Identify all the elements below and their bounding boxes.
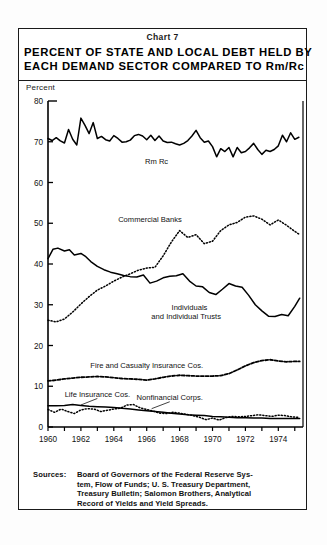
- sources-line-3: Treasury Bulletin; Salomon Brothers, Ana…: [77, 489, 253, 499]
- y-tick-label: 10: [34, 382, 44, 391]
- chart-svg: 0102030405060708019601962196419661968197…: [18, 93, 307, 445]
- sources-line-2: tem, Flow of Funds; U. S. Treasury Depar…: [77, 480, 253, 490]
- x-tick-label: 1960: [39, 435, 58, 444]
- y-axis-unit-label: Percent: [26, 83, 55, 92]
- title-line-1: PERCENT OF STATE AND LOCAL DEBT HELD BY: [24, 46, 301, 60]
- x-tick-label: 1968: [171, 435, 190, 444]
- page-title: PERCENT OF STATE AND LOCAL DEBT HELD BY …: [24, 46, 301, 73]
- sources-text: Board of Governors of the Federal Reserv…: [77, 470, 253, 508]
- sources-line-1: Board of Governors of the Federal Reserv…: [77, 470, 253, 480]
- y-tick-label: 70: [34, 138, 44, 147]
- y-tick-label: 0: [38, 423, 43, 432]
- series-annotation: Commercial Banks: [118, 215, 182, 224]
- series-annotation: and Individual Trusts: [151, 312, 221, 321]
- x-tick-label: 1974: [269, 435, 288, 444]
- y-tick-label: 40: [34, 260, 44, 269]
- sources-block: Sources: Board of Governors of the Feder…: [33, 470, 291, 508]
- series-annotation: Rm Rc: [145, 157, 168, 166]
- x-tick-label: 1964: [105, 435, 124, 444]
- x-tick-label: 1970: [203, 435, 222, 444]
- x-tick-label: 1962: [72, 435, 91, 444]
- y-tick-label: 50: [34, 219, 44, 228]
- series-line: [48, 405, 300, 419]
- x-tick-label: 1972: [236, 435, 255, 444]
- plot-area: 0102030405060708019601962196419661968197…: [18, 93, 307, 445]
- title-divider: [19, 80, 306, 81]
- chart-number-label: Chart 7: [18, 32, 307, 42]
- chart-page: Chart 7 PERCENT OF STATE AND LOCAL DEBT …: [0, 0, 327, 545]
- sources-line-4: Record of Yields and Yield Spreads.: [77, 499, 253, 509]
- title-line-2: EACH DEMAND SECTOR COMPARED TO Rm/Rc: [24, 60, 301, 74]
- series-line: [48, 118, 299, 157]
- annotation-leader: [81, 398, 97, 405]
- series-annotation: Life Insurance Cos.: [65, 390, 130, 399]
- sources-label: Sources:: [33, 470, 77, 479]
- y-tick-label: 20: [34, 342, 44, 351]
- y-tick-label: 60: [34, 179, 44, 188]
- series-annotation: Individuals: [172, 303, 208, 312]
- series-annotation: Nonfinancial Corps.: [137, 393, 203, 402]
- y-tick-label: 30: [34, 301, 44, 310]
- series-annotation: Fire and Casualty Insurance Cos.: [90, 361, 203, 370]
- x-tick-label: 1966: [138, 435, 157, 444]
- y-tick-label: 80: [34, 97, 44, 106]
- annotation-leader: [152, 402, 170, 409]
